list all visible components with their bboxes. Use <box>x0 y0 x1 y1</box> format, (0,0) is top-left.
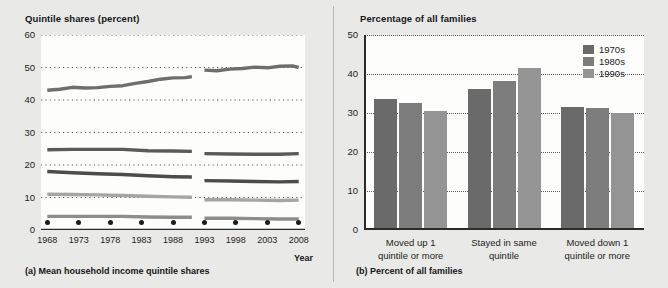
x-tick-marker <box>265 220 270 225</box>
line-series-5-segment-2 <box>204 218 298 219</box>
bar-1980s-group-2 <box>493 81 516 230</box>
panel-b-title: Percentage of all families <box>360 13 477 24</box>
panel-a-svg <box>41 35 305 230</box>
y-tick-label: 10 <box>5 192 35 203</box>
panel-a-plot-area <box>41 35 305 230</box>
y-tick-label: 60 <box>5 29 35 40</box>
x-tick-marker <box>108 220 113 225</box>
bar-1980s-group-1 <box>399 103 422 230</box>
line-series-5-segment-1 <box>47 216 192 217</box>
bar-1990s-group-2 <box>518 68 541 230</box>
legend-label: 1990s <box>599 69 625 79</box>
panel-a-x-axis-label: Year <box>294 253 313 263</box>
category-label-3: Moved down 1quintile or more <box>542 236 652 262</box>
bar-1980s-group-3 <box>586 108 609 230</box>
bar-1990s-group-3 <box>611 113 634 230</box>
y-tick-label: 0 <box>328 224 358 235</box>
y-tick-label: 40 <box>328 68 358 79</box>
legend-label: 1970s <box>599 45 625 55</box>
x-tick-marker <box>171 220 176 225</box>
category-label-line: Moved down 1 <box>542 236 652 249</box>
y-tick-label: 30 <box>5 127 35 138</box>
figure-container: Quintile shares (percent) 0102030405060 … <box>0 0 668 288</box>
panel-b-caption: (b) Percent of all families <box>356 266 463 276</box>
bar-1970s-group-2 <box>468 89 491 230</box>
y-tick-label: 10 <box>328 185 358 196</box>
y-tick-label: 50 <box>328 29 358 40</box>
y-tick-label: 30 <box>328 107 358 118</box>
line-series-3-segment-1 <box>47 172 192 178</box>
line-series-1-segment-1 <box>47 77 192 91</box>
x-tick-marker <box>202 220 207 225</box>
y-tick-label: 40 <box>5 94 35 105</box>
y-tick-label: 50 <box>5 62 35 73</box>
y-tick-label: 0 <box>5 224 35 235</box>
y-tick-label: 20 <box>5 159 35 170</box>
x-tick-marker <box>45 220 50 225</box>
gridline <box>364 35 644 36</box>
line-series-4-segment-2 <box>204 200 298 201</box>
y-tick-label: 20 <box>328 146 358 157</box>
y-axis-line <box>364 35 366 230</box>
x-axis-line <box>364 228 644 230</box>
legend-swatch-icon <box>583 69 594 78</box>
panel-b-legend: 1970s1980s1990s <box>583 44 625 79</box>
legend-item-1990s: 1990s <box>583 68 625 79</box>
bar-1990s-group-1 <box>424 111 447 230</box>
line-series-2-segment-1 <box>47 149 192 151</box>
legend-label: 1980s <box>599 57 625 67</box>
category-label-line: quintile or more <box>542 249 652 262</box>
line-series-4-segment-1 <box>47 194 192 197</box>
legend-swatch-icon <box>583 57 594 66</box>
bar-1970s-group-1 <box>374 99 397 230</box>
panel-b-bar-chart: Percentage of all families 1970s1980s199… <box>334 0 668 288</box>
panel-a-line-chart: Quintile shares (percent) 0102030405060 … <box>0 0 334 288</box>
panel-b-plot-area: 1970s1980s1990s <box>364 35 644 230</box>
legend-item-1970s: 1970s <box>583 44 625 55</box>
x-tick-label: 2008 <box>279 235 319 245</box>
legend-item-1980s: 1980s <box>583 56 625 67</box>
figure-bottom-border <box>0 282 668 288</box>
line-series-3-segment-2 <box>204 181 298 182</box>
line-series-1-segment-2 <box>204 66 298 71</box>
legend-swatch-icon <box>583 45 594 54</box>
panel-a-caption: (a) Mean household income quintile share… <box>25 266 210 276</box>
panel-a-title: Quintile shares (percent) <box>25 13 139 24</box>
bar-1970s-group-3 <box>561 107 584 230</box>
line-series-2-segment-2 <box>204 154 298 155</box>
